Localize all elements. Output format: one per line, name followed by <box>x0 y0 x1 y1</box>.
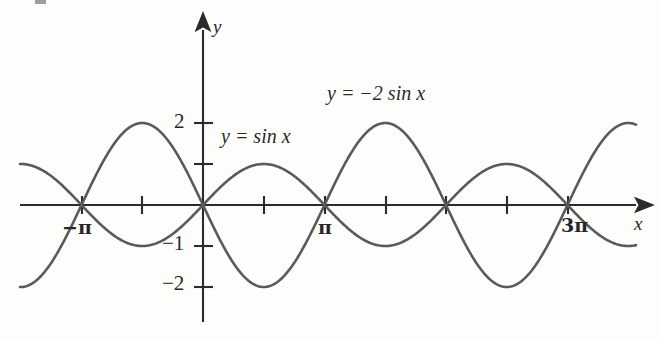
y-axis-label: y <box>213 17 221 36</box>
y-tick-label-2: 2 <box>174 111 185 132</box>
sine-graph-figure: y x −π π 3π 2 −1 −2 y = sin x y = −2 sin… <box>0 0 661 340</box>
x-tick-label-pi: π <box>318 218 332 237</box>
x-axis-label: x <box>634 214 642 233</box>
x-tick-label-3pi: 3π <box>561 216 588 235</box>
y-tick-label-neg-2: −2 <box>162 273 184 294</box>
x-tick-label-neg-pi: −π <box>62 218 92 237</box>
annotation-neg-2-sin-x: y = −2 sin x <box>327 83 425 103</box>
y-tick-label-neg-1: −1 <box>162 233 184 254</box>
annotation-sin-x: y = sin x <box>221 126 291 146</box>
axis-group <box>20 30 636 322</box>
plot-canvas <box>0 0 661 340</box>
